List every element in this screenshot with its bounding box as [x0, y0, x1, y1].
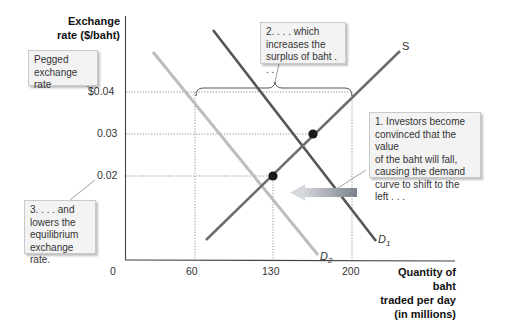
x-axis — [125, 260, 455, 261]
callout-line: curve to shift to the left . . . — [375, 179, 475, 204]
x-tick-60: 60 — [186, 265, 198, 277]
x-axis-title-line1: Quantity of baht — [372, 265, 456, 293]
callout-step2-surplus: 2. . . . which increases the surplus of … — [260, 22, 346, 64]
callout-line: 3. . . . and — [30, 204, 90, 217]
callout-line: exchange rate — [34, 67, 92, 92]
guide-lines — [126, 92, 352, 259]
y-axis-title: Exchange rate ($/baht) — [44, 14, 120, 42]
equilibrium-point-original — [308, 129, 317, 138]
shift-left-arrow — [290, 185, 357, 201]
leader-step3 — [70, 180, 95, 200]
callout-step3-lowers-rate: 3. . . . and lowers the equilibrium exch… — [24, 200, 96, 254]
callout-line: causing the demand — [375, 166, 475, 179]
callout-line: equilibrium — [30, 229, 90, 242]
callout-line: 2. . . . which — [266, 26, 340, 39]
callout-line: exchange rate. — [30, 242, 90, 267]
callout-step1-investors: 1. Investors become convinced that the v… — [369, 112, 481, 178]
callout-line: convinced that the value — [375, 129, 475, 154]
equilibrium-point-new — [268, 171, 277, 180]
callout-line: increases the — [266, 39, 340, 52]
y-tick-0-03: 0.03 — [97, 127, 117, 139]
x-tick-130: 130 — [262, 265, 280, 277]
demand-curve-d2-label: D2 — [320, 250, 332, 265]
y-axis-title-line1: Exchange — [44, 14, 120, 28]
x-axis-title-line3: (in millions) — [372, 307, 456, 321]
x-axis-title: Quantity of baht traded per day (in mill… — [372, 265, 456, 321]
y-tick-0-02: 0.02 — [97, 169, 117, 181]
x-tick-200: 200 — [342, 265, 360, 277]
callout-line: surplus of baht . . . — [266, 51, 340, 76]
leader-step1 — [335, 170, 366, 190]
callout-line: of the baht will fall, — [375, 154, 475, 167]
callout-line: 1. Investors become — [375, 116, 475, 129]
demand-curve-d1-label: D1 — [378, 233, 390, 248]
callout-line: lowers the — [30, 217, 90, 230]
x-axis-title-line2: traded per day — [372, 293, 456, 307]
callout-line: Pegged — [34, 54, 92, 67]
x-tick-0: 0 — [110, 265, 116, 277]
callout-pegged-rate: Pegged exchange rate — [28, 50, 98, 86]
y-axis-title-line2: rate ($/baht) — [44, 28, 120, 42]
supply-curve-label: S — [402, 40, 409, 52]
surplus-bracket — [196, 82, 352, 96]
